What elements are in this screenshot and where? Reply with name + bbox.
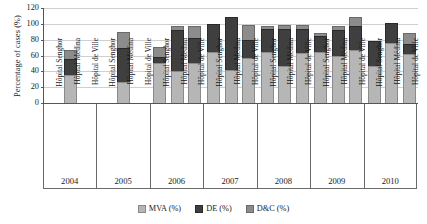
category-slot: Hôpital de Ville: [292, 104, 310, 174]
x-tick-label: Hôpital Senghor: [109, 38, 116, 106]
group-separator: [257, 104, 258, 188]
legend-label: DE (%): [206, 205, 232, 213]
legend-item[interactable]: DE (%): [195, 205, 232, 213]
x-tick-label: Hôpital Senghor: [56, 38, 63, 106]
category-slot: Hôpital Senghor: [43, 104, 61, 174]
category-group: Hôpital SenghorHôpital MédinaHôpital de …: [96, 104, 149, 174]
group-separator: [364, 104, 365, 188]
mva-swatch: [138, 205, 146, 213]
x-tick-label: Hôpital Senghor: [270, 38, 277, 106]
group-separator: [416, 104, 417, 188]
category-slot: Hôpital Médina: [114, 104, 132, 174]
bar-group: [311, 8, 365, 103]
bar-group: [204, 8, 258, 103]
year-block: 2005: [96, 174, 149, 188]
year-labels: 2004200520062007200820092010: [43, 174, 417, 188]
y-tick-label: 60: [17, 52, 39, 60]
category-labels: Hôpital SenghorHôpital MédinaHôpital de …: [43, 104, 417, 174]
category-slot: Hôpital de Ville: [132, 104, 150, 174]
category-slot: Hôpital Médina: [275, 104, 293, 174]
year-label: 2010: [382, 177, 399, 186]
category-slot: Hôpital Médina: [168, 104, 186, 174]
x-tick-label: Hôpital Senghor: [163, 38, 170, 106]
x-tick-label: Hôpital de Ville: [198, 38, 205, 106]
category-group: Hôpital SenghorHôpital MédinaHôpital de …: [43, 104, 96, 174]
category-slot: Hôpital Senghor: [257, 104, 275, 174]
category-slot: Hôpital Senghor: [203, 104, 221, 174]
x-tick-label: Hôpital Médina: [181, 38, 188, 106]
category-slot: Hôpital de Ville: [239, 104, 257, 174]
category-group: Hôpital SenghorHôpital MédinaHôpital de …: [310, 104, 363, 174]
x-tick-label: Hôpital Senghor: [376, 38, 383, 106]
legend-item[interactable]: MVA (%): [138, 205, 181, 213]
group-separator: [43, 104, 44, 188]
legend-item[interactable]: D&C (%): [246, 205, 290, 213]
category-slot: Hôpital Médina: [328, 104, 346, 174]
x-tick-label: Hôpital de Ville: [252, 38, 259, 106]
year-block: 2008: [257, 174, 310, 188]
x-tick-label: Hôpital Médina: [394, 38, 401, 106]
x-tick-label: Hôpital de Ville: [359, 38, 366, 106]
year-label: 2008: [275, 177, 292, 186]
category-slot: Hôpital Médina: [221, 104, 239, 174]
x-tick-label: Hôpital de Ville: [92, 38, 99, 106]
year-label: 2007: [221, 177, 238, 186]
category-slot: Hôpital Senghor: [310, 104, 328, 174]
category-slot: Hôpital de Ville: [79, 104, 97, 174]
bar-group: [97, 8, 151, 103]
category-group: Hôpital SenghorHôpital MédinaHôpital de …: [257, 104, 310, 174]
year-label: 2009: [328, 177, 345, 186]
category-slot: Hôpital Senghor: [150, 104, 168, 174]
bar-group: [44, 8, 97, 103]
year-label: 2005: [115, 177, 132, 186]
stacked-bar-chart: Percentage of cases (%) 020406080100120 …: [0, 0, 427, 224]
x-tick-label: Hôpital Médina: [74, 38, 81, 106]
year-label: 2004: [61, 177, 78, 186]
category-slot: Hôpital Médina: [61, 104, 79, 174]
chart-legend: MVA (%)DE (%)D&C (%): [0, 202, 427, 216]
y-tick-label: 120: [17, 4, 39, 12]
category-slot: Hôpital Senghor: [96, 104, 114, 174]
legend-label: MVA (%): [149, 205, 181, 213]
category-slot: Hôpital Senghor: [364, 104, 382, 174]
bar-group: [257, 8, 311, 103]
y-tick-label: 80: [17, 36, 39, 44]
year-block: 2010: [364, 174, 417, 188]
x-tick-label: Hôpital Médina: [234, 38, 241, 106]
axis-bottom-rule: [43, 188, 417, 189]
bar-group: [364, 8, 418, 103]
year-block: 2009: [310, 174, 363, 188]
group-separator: [150, 104, 151, 188]
category-slot: Hôpital de Ville: [399, 104, 417, 174]
bar-group: [150, 8, 204, 103]
year-block: 2006: [150, 174, 203, 188]
x-tick-label: Hôpital de Ville: [305, 38, 312, 106]
x-tick-label: Hôpital Médina: [287, 38, 294, 106]
dc-swatch: [246, 205, 254, 213]
year-block: 2004: [43, 174, 96, 188]
x-tick-label: Hôpital de Ville: [145, 38, 152, 106]
category-group: Hôpital SenghorHôpital MédinaHôpital de …: [150, 104, 203, 174]
year-label: 2006: [168, 177, 185, 186]
category-group: Hôpital SenghorHôpital MédinaHôpital de …: [203, 104, 256, 174]
x-tick-label: Hôpital Senghor: [216, 38, 223, 106]
bar-segment-dc[interactable]: [188, 26, 201, 38]
group-separator: [310, 104, 311, 188]
x-tick-label: Hôpital Médina: [341, 38, 348, 106]
legend-label: D&C (%): [257, 205, 290, 213]
group-separator: [96, 104, 97, 188]
x-tick-label: Hôpital Médina: [127, 38, 134, 106]
category-slot: Hôpital de Ville: [346, 104, 364, 174]
de-swatch: [195, 205, 203, 213]
y-tick-label: 20: [17, 83, 39, 91]
category-group: Hôpital SenghorHôpital MédinaHôpital de …: [364, 104, 417, 174]
y-tick-label: 100: [17, 20, 39, 28]
x-tick-label: Hôpital de Ville: [412, 38, 419, 106]
group-separator: [203, 104, 204, 188]
y-tick-label: 0: [17, 99, 39, 107]
category-slot: Hôpital Médina: [381, 104, 399, 174]
bar-segment-dc[interactable]: [349, 17, 362, 27]
x-tick-label: Hôpital Senghor: [323, 38, 330, 106]
y-tick-label: 40: [17, 67, 39, 75]
year-block: 2007: [203, 174, 256, 188]
